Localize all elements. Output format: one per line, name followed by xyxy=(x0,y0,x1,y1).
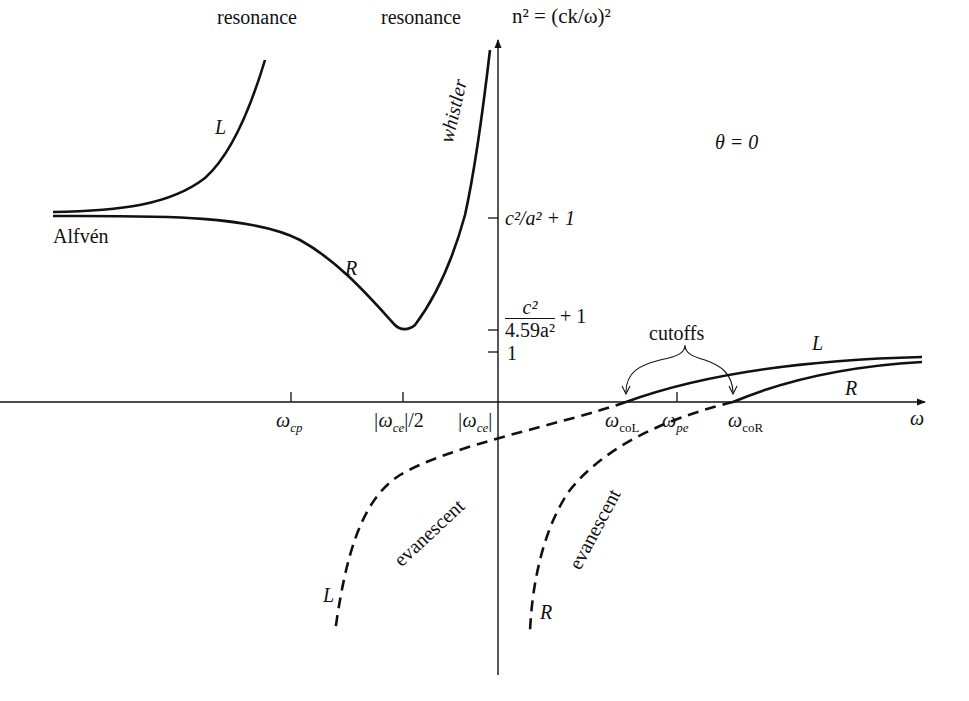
xtick-wcoR-sym: ω xyxy=(728,409,742,431)
xtick-wce-sub: ce xyxy=(477,420,489,435)
xtick-wce-half-post: |/2 xyxy=(404,409,424,431)
ytick-label-c2-459a2: c² 4.59a² + 1 xyxy=(505,297,586,340)
ytick-fraction: c² 4.59a² xyxy=(505,297,555,340)
diagram-canvas xyxy=(0,0,969,701)
label-alfven: Alfvén xyxy=(53,226,109,246)
ytick-c2a2-text: c²/a² + 1 xyxy=(505,207,575,229)
xtick-wpe-sub: pe xyxy=(676,420,688,435)
xtick-wcoR-sub: coR xyxy=(742,420,763,435)
label-branch-R-evanescent: R xyxy=(540,602,552,622)
label-branch-L-upper: L xyxy=(215,117,226,137)
label-branch-L-evanescent: L xyxy=(323,585,334,605)
xtick-label-wcoL: ωcoL xyxy=(605,410,639,434)
label-branch-L-high: L xyxy=(812,333,823,353)
x-axis-label: ω xyxy=(910,408,924,428)
xtick-label-wcp: ωcp xyxy=(276,410,302,434)
ytick-label-c2a2: c²/a² + 1 xyxy=(505,208,575,228)
xtick-wcoL-sym: ω xyxy=(605,409,619,431)
curve-R-evanescent xyxy=(530,402,733,632)
xtick-wce-post: | xyxy=(488,409,492,431)
label-branch-R-high: R xyxy=(845,378,857,398)
xtick-label-wpe: ωpe xyxy=(662,410,688,434)
xtick-label-wce: |ωce| xyxy=(457,410,492,434)
xtick-label-wcoR: ωcoR xyxy=(728,410,763,434)
curve-R-high xyxy=(733,362,922,402)
xtick-wpe-sym: ω xyxy=(662,409,676,431)
curve-L-evanescent xyxy=(335,402,626,632)
theta-condition: θ = 0 xyxy=(715,132,758,152)
y-axis-label: n² = (ck/ω)² xyxy=(512,6,611,27)
xtick-wce-half-pre: |ω xyxy=(373,409,393,431)
xtick-wcp-sub: cp xyxy=(290,420,302,435)
ytick-label-one: 1 xyxy=(507,343,517,363)
xtick-label-wce-half: |ωce|/2 xyxy=(373,410,424,434)
xtick-wce-half-sub: ce xyxy=(393,420,405,435)
label-resonance-left: resonance xyxy=(217,7,297,27)
ytick-fraction-num: c² xyxy=(505,297,555,319)
label-cutoffs: cutoffs xyxy=(649,323,704,343)
ytick-fraction-den: 4.59a² xyxy=(505,319,555,340)
curve-L-ion-cyclotron xyxy=(53,60,265,212)
label-resonance-right: resonance xyxy=(381,7,461,27)
curve-L-high xyxy=(626,357,922,402)
xtick-wcp-sym: ω xyxy=(276,409,290,431)
ytick-fraction-post: + 1 xyxy=(560,305,586,327)
xtick-wcoL-sub: coL xyxy=(619,420,639,435)
y-axis-label-text: n² = (ck/ω)² xyxy=(512,4,611,28)
label-branch-R-upper: R xyxy=(345,258,357,278)
xtick-wce-pre: |ω xyxy=(457,409,477,431)
curve-R-whistler xyxy=(53,50,490,329)
